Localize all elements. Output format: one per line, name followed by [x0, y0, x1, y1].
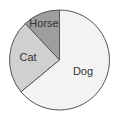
slice-label-horse: Horse: [29, 17, 58, 29]
slice-label-dog: Dog: [73, 65, 93, 77]
pie-chart: Horse Cat Dog: [0, 0, 119, 117]
slice-label-cat: Cat: [19, 51, 36, 63]
